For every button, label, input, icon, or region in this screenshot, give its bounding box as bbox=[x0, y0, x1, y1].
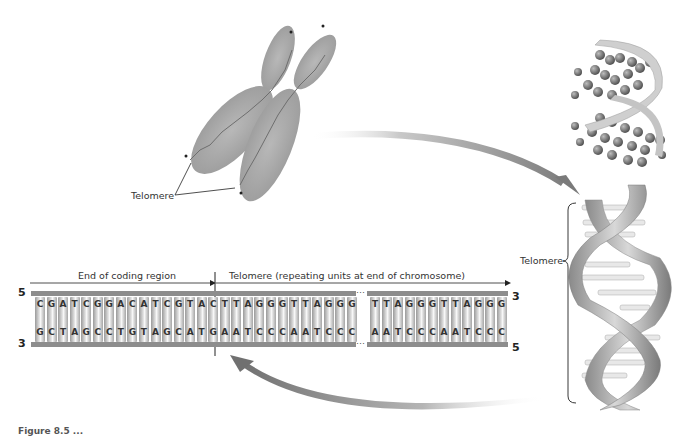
top-base: T bbox=[369, 299, 381, 309]
helix-ball-model bbox=[571, 40, 666, 167]
bottom-base: T bbox=[115, 327, 127, 337]
top-base: G bbox=[323, 299, 335, 309]
bottom-base: A bbox=[381, 327, 393, 337]
bottom-base: C bbox=[346, 327, 358, 337]
chromosome-telomere-label: Telomere bbox=[131, 190, 174, 201]
helix-telomere-label: Telomere bbox=[520, 255, 563, 266]
bottom-strand-segment1 bbox=[31, 342, 356, 347]
top-base: A bbox=[242, 299, 254, 309]
bottom-base: T bbox=[138, 327, 150, 337]
top-base: T bbox=[230, 299, 242, 309]
top-base: T bbox=[184, 299, 196, 309]
bottom-base: C bbox=[334, 327, 346, 337]
top-base: A bbox=[196, 299, 208, 309]
top-base: A bbox=[461, 299, 473, 309]
top-base: G bbox=[484, 299, 496, 309]
bottom-base: G bbox=[207, 327, 219, 337]
top-base: G bbox=[265, 299, 277, 309]
bottom-left-end-label: 3 bbox=[18, 337, 26, 350]
bottom-base: C bbox=[46, 327, 58, 337]
figure-caption: Figure 8.5 ... bbox=[18, 426, 83, 436]
bottom-base: A bbox=[184, 327, 196, 337]
bottom-base: T bbox=[57, 327, 69, 337]
top-strand-segment1 bbox=[31, 291, 356, 296]
helix-ribbon-model bbox=[569, 185, 671, 410]
bottom-base: A bbox=[438, 327, 450, 337]
bottom-base: T bbox=[392, 327, 404, 337]
top-base: G bbox=[173, 299, 185, 309]
top-base: T bbox=[381, 299, 393, 309]
bottom-base: A bbox=[230, 327, 242, 337]
top-base: C bbox=[207, 299, 219, 309]
bottom-base: C bbox=[473, 327, 485, 337]
coding-region-label: End of coding region bbox=[78, 270, 176, 281]
top-base: C bbox=[34, 299, 46, 309]
bottom-right-end-label: 5 bbox=[512, 341, 520, 354]
top-base: G bbox=[46, 299, 58, 309]
top-base: G bbox=[473, 299, 485, 309]
bottom-base: C bbox=[427, 327, 439, 337]
bottom-base: C bbox=[92, 327, 104, 337]
chromosome-illustration bbox=[177, 22, 344, 209]
bottom-base: A bbox=[369, 327, 381, 337]
bottom-base: A bbox=[219, 327, 231, 337]
top-base: T bbox=[219, 299, 231, 309]
bottom-base: C bbox=[277, 327, 289, 337]
bottom-base: G bbox=[80, 327, 92, 337]
top-base: C bbox=[80, 299, 92, 309]
bottom-base: C bbox=[323, 327, 335, 337]
bottom-base: A bbox=[69, 327, 81, 337]
bottom-base: T bbox=[461, 327, 473, 337]
bottom-base: T bbox=[311, 327, 323, 337]
bottom-base: C bbox=[496, 327, 508, 337]
top-base: G bbox=[103, 299, 115, 309]
top-base: G bbox=[404, 299, 416, 309]
top-base: T bbox=[300, 299, 312, 309]
bottom-base: C bbox=[265, 327, 277, 337]
bottom-base: G bbox=[161, 327, 173, 337]
bottom-base: A bbox=[150, 327, 162, 337]
bottom-base: G bbox=[34, 327, 46, 337]
bottom-base: T bbox=[242, 327, 254, 337]
bottom-base: G bbox=[126, 327, 138, 337]
bottom-base: C bbox=[173, 327, 185, 337]
bottom-base: A bbox=[450, 327, 462, 337]
top-base: C bbox=[126, 299, 138, 309]
top-ellipsis: … bbox=[356, 285, 366, 295]
bottom-strand-segment2 bbox=[367, 342, 508, 347]
top-base: G bbox=[496, 299, 508, 309]
top-base: T bbox=[288, 299, 300, 309]
top-base: A bbox=[57, 299, 69, 309]
bottom-base: C bbox=[415, 327, 427, 337]
bottom-base: A bbox=[300, 327, 312, 337]
top-base: A bbox=[138, 299, 150, 309]
top-base: T bbox=[150, 299, 162, 309]
top-base: G bbox=[334, 299, 346, 309]
bottom-base: C bbox=[404, 327, 416, 337]
top-base: T bbox=[438, 299, 450, 309]
top-base: G bbox=[427, 299, 439, 309]
top-strand-segment2 bbox=[367, 291, 508, 296]
top-base: G bbox=[415, 299, 427, 309]
top-base: G bbox=[346, 299, 358, 309]
top-base: A bbox=[311, 299, 323, 309]
bottom-base: C bbox=[484, 327, 496, 337]
top-base: G bbox=[277, 299, 289, 309]
top-base: A bbox=[392, 299, 404, 309]
top-base: T bbox=[69, 299, 81, 309]
top-base: A bbox=[115, 299, 127, 309]
bottom-base: C bbox=[103, 327, 115, 337]
telomere-region-label: Telomere (repeating units at end of chro… bbox=[229, 270, 465, 281]
bottom-base: T bbox=[196, 327, 208, 337]
top-right-end-label: 3 bbox=[512, 290, 520, 303]
top-base: C bbox=[161, 299, 173, 309]
bottom-ellipsis: … bbox=[356, 336, 366, 346]
top-base: T bbox=[450, 299, 462, 309]
bottom-base: A bbox=[288, 327, 300, 337]
bottom-base: C bbox=[253, 327, 265, 337]
top-left-end-label: 5 bbox=[18, 286, 26, 299]
top-base: G bbox=[92, 299, 104, 309]
top-base: G bbox=[253, 299, 265, 309]
